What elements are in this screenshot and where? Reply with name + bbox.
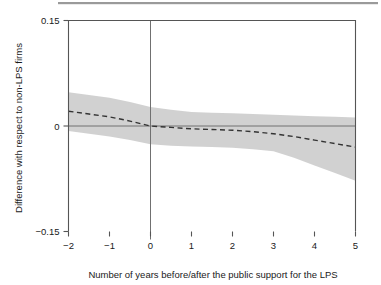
x-tick-label: 5 xyxy=(353,240,358,251)
y-tick-label: 0 xyxy=(54,121,59,132)
x-tick-label: 3 xyxy=(271,240,276,251)
x-tick-label: −1 xyxy=(104,240,115,251)
x-tick-label: −2 xyxy=(63,240,74,251)
y-tick-label: 0.15 xyxy=(41,15,60,26)
y-tick-label: −0.15 xyxy=(35,226,59,237)
event-study-chart: −2−1012345 0.150−0.15 Number of years be… xyxy=(0,0,381,285)
x-tick-label: 4 xyxy=(312,240,317,251)
x-tick-label: 1 xyxy=(189,240,194,251)
y-axis-title: Difference with respect to non-LPS firms xyxy=(13,43,24,213)
page-top-rule xyxy=(58,2,378,4)
x-tick-label: 0 xyxy=(148,240,153,251)
x-tick-label: 2 xyxy=(230,240,235,251)
x-axis-title: Number of years before/after the public … xyxy=(88,269,337,280)
